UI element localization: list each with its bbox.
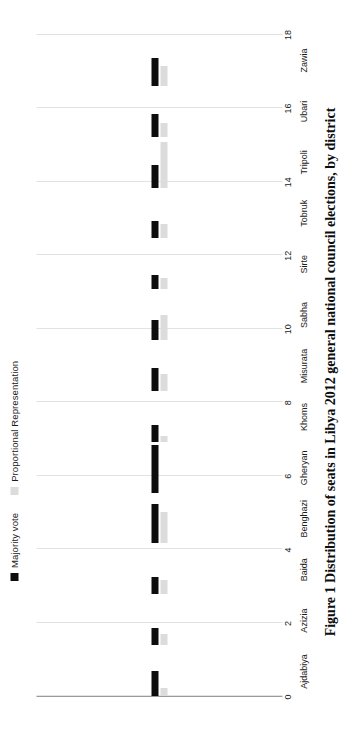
axis-tick-label: 6 bbox=[282, 474, 292, 479]
bar-group bbox=[36, 442, 282, 493]
figure-caption: Figure 1 Distribution of seats in Libya … bbox=[322, 0, 338, 744]
chart-legend: Majority vote Proportional Representatio… bbox=[8, 361, 19, 581]
bar-group bbox=[36, 238, 282, 289]
category-label: Misurata bbox=[298, 341, 316, 392]
bar-majority-vote[interactable] bbox=[151, 114, 158, 137]
bar-majority-vote[interactable] bbox=[151, 58, 158, 86]
bar-majority-vote[interactable] bbox=[151, 221, 158, 238]
bar-proportional-representation[interactable] bbox=[160, 278, 167, 289]
bar-proportional-representation[interactable] bbox=[160, 436, 167, 442]
bar-group bbox=[36, 289, 282, 340]
legend-item-proportional-representation: Proportional Representation bbox=[8, 361, 19, 495]
bar-proportional-representation[interactable] bbox=[160, 688, 167, 696]
bar-proportional-representation[interactable] bbox=[160, 315, 167, 340]
legend-swatch-black-icon bbox=[10, 573, 18, 581]
category-label: Benghazi bbox=[298, 493, 316, 544]
category-label: Zawia bbox=[298, 35, 316, 86]
bar-group bbox=[36, 188, 282, 239]
axis-tick-label: 2 bbox=[282, 621, 292, 626]
axis-tick-label: 16 bbox=[282, 104, 292, 114]
axis-tick-label: 4 bbox=[282, 547, 292, 552]
category-label: Baida bbox=[298, 544, 316, 595]
bar-group bbox=[36, 391, 282, 442]
legend-label-proportional-representation: Proportional Representation bbox=[8, 361, 19, 482]
bar-proportional-representation[interactable] bbox=[160, 512, 167, 543]
bar-groups bbox=[36, 35, 282, 696]
axis-tick-label: 0 bbox=[282, 694, 292, 699]
axis-tick-label: 8 bbox=[282, 400, 292, 405]
bar-group bbox=[36, 35, 282, 86]
bar-proportional-representation[interactable] bbox=[160, 634, 167, 645]
bar-proportional-representation[interactable] bbox=[160, 224, 167, 238]
bar-group bbox=[36, 645, 282, 696]
bar-proportional-representation[interactable] bbox=[160, 142, 167, 187]
plot-area bbox=[36, 35, 282, 697]
bar-group bbox=[36, 594, 282, 645]
category-label: Tobruk bbox=[298, 188, 316, 239]
axis-tick-label: 18 bbox=[282, 30, 292, 40]
bar-majority-vote[interactable] bbox=[151, 165, 158, 188]
category-label: Ubari bbox=[298, 86, 316, 137]
bar-group bbox=[36, 137, 282, 188]
bar-majority-vote[interactable] bbox=[151, 320, 158, 340]
bar-proportional-representation[interactable] bbox=[160, 123, 167, 137]
bar-majority-vote[interactable] bbox=[151, 504, 158, 544]
bar-proportional-representation[interactable] bbox=[160, 66, 167, 86]
category-label: Azizia bbox=[298, 595, 316, 646]
bar-majority-vote[interactable] bbox=[151, 368, 158, 391]
axis-tick-label: 14 bbox=[282, 177, 292, 187]
category-label: Ajdabiya bbox=[298, 646, 316, 697]
category-label: Sirte bbox=[298, 239, 316, 290]
value-axis: 024681012141618 bbox=[282, 35, 298, 697]
bar-majority-vote[interactable] bbox=[151, 445, 158, 493]
category-label: Tripoli bbox=[298, 137, 316, 188]
bar-majority-vote[interactable] bbox=[151, 577, 158, 594]
legend-swatch-gray-icon bbox=[10, 487, 18, 495]
bar-proportional-representation[interactable] bbox=[160, 374, 167, 391]
bar-group bbox=[36, 340, 282, 391]
legend-item-majority-vote: Majority vote bbox=[8, 513, 19, 581]
bar-majority-vote[interactable] bbox=[151, 671, 158, 696]
bar-group bbox=[36, 493, 282, 544]
legend-label-majority-vote: Majority vote bbox=[8, 513, 19, 568]
category-axis: AjdabiyaAziziaBaidaBenghaziGheryanKhomsM… bbox=[298, 35, 316, 697]
category-label: Gheryan bbox=[298, 442, 316, 493]
axis-tick-label: 10 bbox=[282, 324, 292, 334]
bar-majority-vote[interactable] bbox=[151, 275, 158, 289]
figure-stage: Majority vote Proportional Representatio… bbox=[0, 0, 355, 744]
bar-chart-figure: Majority vote Proportional Representatio… bbox=[0, 0, 355, 744]
bar-majority-vote[interactable] bbox=[151, 628, 158, 645]
category-label: Sabha bbox=[298, 290, 316, 341]
category-label: Khoms bbox=[298, 391, 316, 442]
bar-majority-vote[interactable] bbox=[151, 425, 158, 442]
bar-proportional-representation[interactable] bbox=[160, 580, 167, 594]
bar-group bbox=[36, 86, 282, 137]
bar-group bbox=[36, 543, 282, 594]
axis-tick-label: 12 bbox=[282, 251, 292, 261]
